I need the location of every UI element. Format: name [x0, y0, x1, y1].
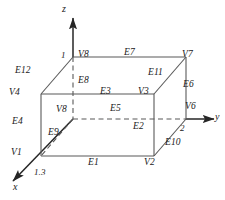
z-axis-label: z: [62, 4, 66, 14]
vertex-label-v8-back: V8: [56, 105, 67, 115]
vertex-label-v1: V1: [11, 148, 22, 158]
y-axis-label: y: [215, 112, 220, 122]
vertex-label-v7: V7: [182, 50, 193, 60]
vertex-label-v4: V4: [9, 88, 20, 98]
edge-label-e5: E5: [110, 104, 121, 114]
edge-label-e1: E1: [88, 158, 99, 168]
box-diagram-figure: z y x 1 2 1.3 V8 V7 V4 V3 V8 V6 V1 V2 E7…: [0, 0, 225, 200]
edge-label-e9: E9: [48, 128, 59, 138]
x-axis-tick-1-3: 1.3: [34, 168, 46, 177]
edge-label-e11: E11: [148, 68, 163, 78]
vertex-label-v2: V2: [144, 158, 155, 168]
edge-label-e12: E12: [15, 66, 31, 76]
vertex-label-v8-top: V8: [78, 50, 89, 60]
edge-label-e7: E7: [124, 48, 135, 58]
vertex-label-v6: V6: [185, 102, 196, 112]
x-axis-label: x: [13, 182, 18, 192]
edge-label-e2: E2: [133, 122, 144, 132]
edge-label-e3: E3: [100, 87, 111, 97]
edge-label-e10: E10: [165, 138, 181, 148]
edge-label-e4: E4: [12, 117, 23, 127]
edge-e12-line: [41, 57, 73, 94]
z-axis-tick-1: 1: [61, 51, 66, 60]
y-axis-tick-2: 2: [180, 124, 185, 133]
vertex-label-v3: V3: [138, 87, 149, 97]
edge-label-e8: E8: [78, 76, 89, 86]
edge-label-e6: E6: [183, 80, 194, 90]
